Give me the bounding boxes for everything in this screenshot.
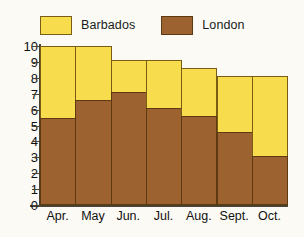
y-axis-tick-mark bbox=[32, 189, 39, 190]
x-axis-tick-label: Sept. bbox=[217, 210, 252, 223]
bar-group[interactable] bbox=[252, 76, 288, 205]
bar-segment-london[interactable] bbox=[111, 92, 147, 205]
legend-entry-london: London bbox=[161, 16, 244, 35]
bar-group[interactable] bbox=[146, 60, 182, 205]
y-axis-tick-mark bbox=[32, 126, 39, 127]
y-axis-tick-mark bbox=[32, 78, 39, 79]
y-axis-tick-mark bbox=[32, 205, 39, 206]
legend-label-london: London bbox=[202, 18, 244, 32]
x-axis-tick-label: Jun. bbox=[111, 210, 146, 223]
y-axis-tick-mark bbox=[32, 46, 39, 47]
x-axis-tick-label: Jul. bbox=[146, 210, 181, 223]
y-axis-tick-mark bbox=[32, 62, 39, 63]
y-axis-tick-mark bbox=[32, 157, 39, 158]
y-axis-tick-mark bbox=[32, 110, 39, 111]
bar-segment-barbados[interactable] bbox=[111, 60, 147, 93]
bar-segment-barbados[interactable] bbox=[181, 68, 217, 117]
legend-swatch-barbados-icon bbox=[40, 16, 72, 35]
bar-segment-barbados[interactable] bbox=[40, 46, 76, 119]
bar-segment-london[interactable] bbox=[75, 100, 111, 205]
bar-segment-london[interactable] bbox=[217, 132, 253, 205]
bar-segment-barbados[interactable] bbox=[217, 76, 253, 133]
plot-area bbox=[40, 46, 287, 205]
bar-segment-london[interactable] bbox=[252, 156, 288, 205]
stacked-bar-chart: Barbados London 109876543210 Apr.MayJun.… bbox=[0, 0, 304, 237]
x-axis-tick-label: Oct. bbox=[252, 210, 287, 223]
x-axis-tick-label: Apr. bbox=[40, 210, 75, 223]
bar-segment-barbados[interactable] bbox=[75, 46, 111, 101]
legend-entry-barbados: Barbados bbox=[40, 16, 135, 35]
bar-segment-barbados[interactable] bbox=[146, 60, 182, 109]
chart-legend: Barbados London bbox=[0, 10, 304, 40]
bar-group[interactable] bbox=[111, 60, 147, 205]
bar-segment-london[interactable] bbox=[146, 108, 182, 205]
y-axis-tick-mark bbox=[32, 173, 39, 174]
x-axis-tick-label: Aug. bbox=[181, 210, 216, 223]
bar-segment-barbados[interactable] bbox=[252, 76, 288, 157]
bar-group[interactable] bbox=[181, 68, 217, 205]
y-axis-tick-mark bbox=[32, 141, 39, 142]
bar-segment-london[interactable] bbox=[181, 116, 217, 205]
bar-segment-london[interactable] bbox=[40, 118, 76, 205]
bar-group[interactable] bbox=[217, 76, 253, 205]
y-axis-tick-mark bbox=[32, 94, 39, 95]
legend-label-barbados: Barbados bbox=[81, 18, 135, 32]
bar-group[interactable] bbox=[75, 46, 111, 205]
x-axis-tick-label: May bbox=[75, 210, 110, 223]
legend-swatch-london-icon bbox=[161, 16, 193, 35]
x-axis-line bbox=[30, 205, 288, 207]
bar-group[interactable] bbox=[40, 46, 76, 205]
